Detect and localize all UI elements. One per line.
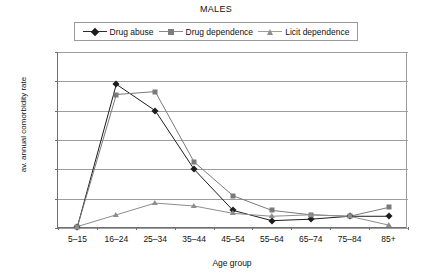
data-point-square bbox=[153, 89, 158, 94]
triangle-marker-icon bbox=[267, 29, 273, 35]
x-axis-tick-label: 35–44 bbox=[174, 234, 214, 244]
legend-item-licit-dependence: Licit dependence bbox=[258, 27, 349, 37]
data-point-triangle bbox=[346, 213, 352, 218]
data-point-triangle bbox=[74, 224, 80, 229]
chart-title: MALES bbox=[0, 4, 432, 14]
data-point-square bbox=[386, 205, 391, 210]
plot-area: 0204060801001205–1516–2425–3435–4445–545… bbox=[57, 52, 407, 228]
x-axis-tick-label: 55–64 bbox=[252, 234, 292, 244]
data-point-square bbox=[231, 193, 236, 198]
square-marker-icon bbox=[168, 29, 174, 35]
y-axis-label: av. annual comorbidity rate bbox=[19, 40, 28, 210]
x-axis-label: Age group bbox=[57, 258, 407, 268]
legend-label: Drug abuse bbox=[110, 27, 154, 37]
x-axis-tick-label: 85+ bbox=[369, 234, 409, 244]
x-axis-tick-label: 16–24 bbox=[96, 234, 136, 244]
data-point-square bbox=[269, 208, 274, 213]
x-axis-tick-label: 65–74 bbox=[291, 234, 331, 244]
data-point-triangle bbox=[269, 213, 275, 218]
x-axis-tick bbox=[408, 227, 409, 230]
data-point-triangle bbox=[152, 200, 158, 205]
series-lines bbox=[58, 52, 408, 228]
legend-label: Licit dependence bbox=[285, 27, 349, 37]
data-point-triangle bbox=[230, 210, 236, 215]
legend-label: Drug dependence bbox=[186, 27, 254, 37]
data-point-triangle bbox=[308, 212, 314, 217]
data-point-triangle bbox=[113, 212, 119, 217]
chart-legend: Drug abuse Drug dependence Licit depende… bbox=[74, 22, 358, 41]
grid-line bbox=[58, 228, 408, 229]
legend-line-icon bbox=[83, 27, 107, 36]
x-axis-tick-label: 5–15 bbox=[57, 234, 97, 244]
x-axis-tick-label: 45–54 bbox=[213, 234, 253, 244]
data-point-triangle bbox=[385, 222, 391, 227]
x-axis-tick-label: 25–34 bbox=[135, 234, 175, 244]
diamond-marker-icon bbox=[90, 27, 98, 35]
data-point-square bbox=[192, 160, 197, 165]
legend-item-drug-dependence: Drug dependence bbox=[159, 27, 254, 37]
legend-line-icon bbox=[258, 27, 282, 36]
data-point-triangle bbox=[191, 203, 197, 208]
x-axis-tick-label: 75–84 bbox=[330, 234, 370, 244]
legend-line-icon bbox=[159, 27, 183, 36]
chart-container: MALES Drug abuse Drug dependence Licit d… bbox=[0, 0, 432, 280]
legend-item-drug-abuse: Drug abuse bbox=[83, 27, 154, 37]
series-line-drug-abuse bbox=[77, 84, 388, 226]
data-point-square bbox=[114, 92, 119, 97]
